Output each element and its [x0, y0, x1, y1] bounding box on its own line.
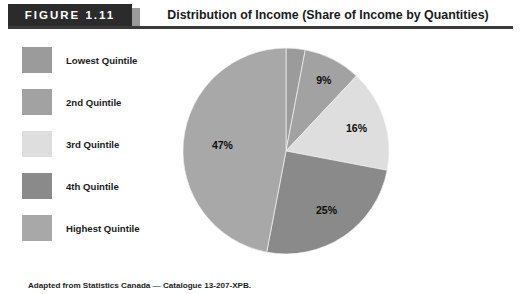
- figure-number-tag: FIGURE 1.11: [8, 4, 132, 26]
- chart-legend: Lowest Quintile 2nd Quintile 3rd Quintil…: [22, 45, 182, 245]
- legend-item-3rd-quintile: 3rd Quintile: [22, 129, 182, 159]
- pie-slice-label: 47%: [212, 139, 234, 151]
- legend-swatch-lowest-quintile: [22, 47, 52, 73]
- pie-slice: [183, 48, 286, 252]
- legend-swatch-3rd-quintile: [22, 131, 52, 157]
- figure-body: Lowest Quintile 2nd Quintile 3rd Quintil…: [8, 29, 513, 274]
- figure-header: FIGURE 1.11 Distribution of Income (Shar…: [8, 4, 513, 28]
- legend-label-3rd-quintile: 3rd Quintile: [66, 139, 119, 150]
- legend-item-highest-quintile: Highest Quintile: [22, 213, 182, 243]
- figure-title: Distribution of Income (Share of Income …: [148, 4, 508, 26]
- legend-label-4th-quintile: 4th Quintile: [66, 181, 119, 192]
- legend-item-2nd-quintile: 2nd Quintile: [22, 87, 182, 117]
- figure-number-label: FIGURE 1.11: [25, 9, 115, 21]
- legend-label-2nd-quintile: 2nd Quintile: [66, 97, 121, 108]
- pie-slice-label: 16%: [346, 122, 368, 134]
- pie-slice-label: 9%: [316, 74, 332, 86]
- legend-item-lowest-quintile: Lowest Quintile: [22, 45, 182, 75]
- legend-swatch-4th-quintile: [22, 173, 52, 199]
- legend-swatch-2nd-quintile: [22, 89, 52, 115]
- pie-chart-svg: 3%9%16%25%47%: [183, 47, 413, 262]
- pie-slice-group: [183, 48, 389, 254]
- figure-source-note: Adapted from Statistics Canada — Catalog…: [28, 281, 468, 294]
- legend-item-4th-quintile: 4th Quintile: [22, 171, 182, 201]
- pie-slice-label: 25%: [316, 204, 338, 216]
- legend-label-lowest-quintile: Lowest Quintile: [66, 55, 137, 66]
- pie-chart: 3%9%16%25%47%: [183, 47, 413, 262]
- legend-label-highest-quintile: Highest Quintile: [66, 223, 140, 234]
- legend-swatch-highest-quintile: [22, 215, 52, 241]
